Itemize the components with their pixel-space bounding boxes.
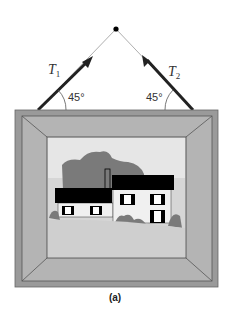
angle-arc-right [165, 90, 173, 110]
angle-arc-left [58, 90, 66, 110]
house-painting [48, 138, 185, 257]
tension-label-left: T1 [48, 62, 60, 79]
roof-left [55, 188, 112, 203]
angle-label-left: 45° [68, 91, 85, 103]
figure-caption: (a) [0, 292, 230, 303]
tension-label-right: T2 [168, 64, 180, 81]
hanging-picture-diagram: T1 T2 45° 45° (a) [0, 0, 230, 310]
nail-point-icon [113, 26, 118, 31]
roof-right [112, 175, 174, 190]
chimney [105, 169, 110, 191]
arrow-head-right-icon [142, 55, 150, 67]
angle-label-right: 45° [146, 91, 163, 103]
